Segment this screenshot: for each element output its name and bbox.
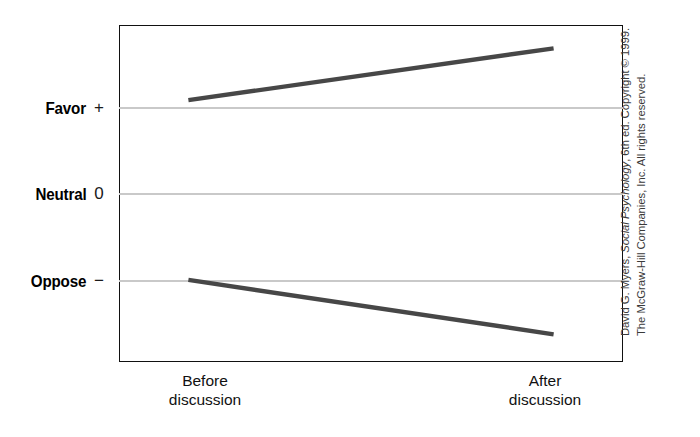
group-polarization-chart: Favor + Neutral 0 Oppose − Before discus… bbox=[0, 0, 700, 437]
y-axis-tick-neutral: Neutral 0 bbox=[0, 183, 112, 205]
series-line-initially-opposing bbox=[188, 280, 553, 334]
x-axis-tick-before-line2: discussion bbox=[115, 390, 295, 409]
series-line-initially-favoring bbox=[188, 48, 553, 100]
x-axis-tick-after-line2: discussion bbox=[455, 390, 635, 409]
credit-prefix: David G. Myers, bbox=[619, 253, 631, 336]
x-axis-tick-after-line1: After bbox=[455, 371, 635, 390]
x-axis-tick-before: Before discussion bbox=[115, 371, 295, 409]
copyright-credit: David G. Myers, Social Psychology, 6th e… bbox=[617, 6, 663, 336]
data-series-group bbox=[119, 25, 623, 362]
y-axis-tick-favor-symbol: + bbox=[86, 98, 112, 118]
x-axis-tick-before-line1: Before bbox=[115, 371, 295, 390]
y-axis-tick-neutral-label: Neutral bbox=[35, 185, 86, 204]
x-axis-tick-after: After discussion bbox=[455, 371, 635, 409]
y-axis-tick-favor-label: Favor bbox=[46, 99, 86, 118]
credit-book-title: Social Psychology bbox=[619, 162, 631, 253]
y-axis-tick-oppose-label: Oppose bbox=[31, 272, 86, 291]
y-axis-tick-favor: Favor + bbox=[0, 97, 112, 119]
y-axis-tick-oppose: Oppose − bbox=[0, 270, 112, 292]
y-axis-tick-neutral-symbol: 0 bbox=[86, 184, 112, 204]
y-axis-tick-oppose-symbol: − bbox=[86, 271, 112, 291]
